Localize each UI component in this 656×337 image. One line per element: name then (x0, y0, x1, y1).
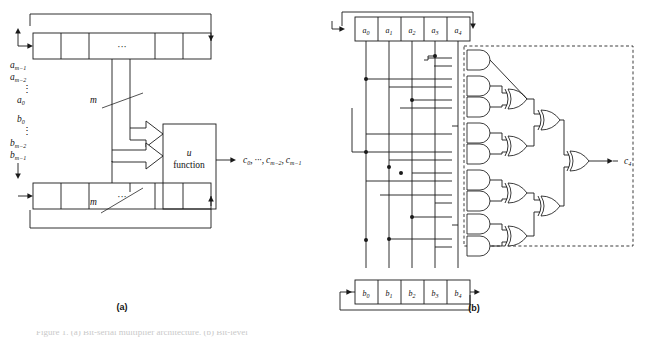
panel-a-caption: (a) (117, 302, 128, 312)
dashed-boundary (464, 46, 633, 246)
svg-text:am−2: am−2 (10, 72, 26, 83)
bottom-register-feedback-loop (15, 163, 214, 228)
register-a-cell: a3 (432, 26, 439, 36)
svg-text:a0: a0 (17, 95, 25, 106)
panel-a-output-label: c0, ···, cm−2, cm−1 (243, 155, 301, 166)
input-labels-a: am−1 am−2 ⋮ a0 (10, 60, 32, 106)
panel-b-output-label: c4 (624, 156, 631, 167)
top-register-feedback-loop (15, 14, 214, 49)
bus-width-label-bottom: m (90, 197, 97, 207)
xor-gate-level-2 (527, 99, 560, 236)
svg-text:bm−2: bm−2 (10, 138, 26, 149)
register-a-cell: a1 (386, 26, 393, 36)
register-a-cell: a2 (409, 26, 416, 36)
register-a-cell: a4 (455, 26, 462, 36)
panel-b-register-a: a0 a1 a2 a3 a4 (355, 17, 470, 268)
u-function-line1: u (187, 148, 192, 158)
panel-a: ··· am−1 am−2 ⋮ a0 b0 ⋮ bm−2 bm−1 (10, 14, 301, 312)
top-register-ellipsis: ··· (117, 42, 127, 52)
figure-bottom-caption: Figure 1. (a) Bit-serial multiplier arch… (36, 331, 248, 337)
panel-b-caption: (b) (468, 303, 480, 313)
svg-text:b0: b0 (17, 114, 25, 125)
vdots-a: ⋮ (22, 84, 32, 94)
panel-a-output: c0, ···, cm−2, cm−1 (216, 155, 301, 166)
vdots-b: ⋮ (22, 126, 32, 136)
top-register-a: ··· (33, 33, 211, 59)
bottom-bus-to-u-function: m (90, 161, 143, 213)
bus-width-label-top: m (90, 95, 97, 105)
panel-b: a0 a1 a2 a3 a4 b0 b1 (332, 12, 633, 313)
register-b-cell: b1 (386, 289, 393, 299)
panel-b-routing-wires (352, 54, 458, 247)
register-b-cell: b3 (432, 289, 439, 299)
register-b-cell: b2 (409, 289, 416, 299)
svg-text:am−1: am−1 (10, 60, 26, 71)
figure-two-panel-multiplier-diagram: ··· am−1 am−2 ⋮ a0 b0 ⋮ bm−2 bm−1 (0, 0, 656, 337)
panel-b-register-b: b0 b1 b2 b3 b4 (355, 280, 470, 304)
input-labels-b: b0 ⋮ bm−2 bm−1 (10, 114, 32, 161)
figure-bottom-caption-strip: Figure 1. (a) Bit-serial multiplier arch… (0, 331, 656, 337)
register-b-cell: b0 (363, 289, 370, 299)
u-function-line2: function (173, 160, 205, 170)
register-a-cell: a0 (363, 26, 370, 36)
xor-gate-level-1 (490, 60, 527, 246)
svg-text:bm−1: bm−1 (10, 150, 26, 161)
register-b-cell: b4 (455, 289, 462, 299)
top-bus-to-u-function: m (90, 59, 163, 169)
bottom-register-b: ··· (33, 183, 211, 209)
u-function-block: u function (163, 124, 216, 209)
and-gate-column (467, 50, 490, 262)
